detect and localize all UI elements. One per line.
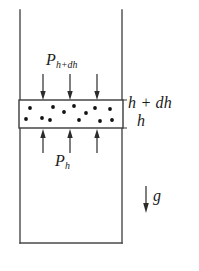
pressure-top-label: Ph+dh <box>46 52 78 70</box>
pressure-bottom-symbol: P <box>55 152 65 169</box>
height-top-label: h + dh <box>128 95 172 111</box>
particle <box>93 106 97 110</box>
particle <box>84 111 88 115</box>
particle <box>62 110 66 114</box>
particle <box>77 118 81 122</box>
pressure-arrow-top-1 <box>40 74 45 100</box>
pressure-bottom-subscript: h <box>65 160 70 171</box>
particle <box>24 117 28 121</box>
figure-caption-clipped <box>60 261 150 271</box>
hydrostatic-pressure-figure: Ph+dh Ph h + dh h g <box>0 0 199 271</box>
particle <box>110 118 114 122</box>
fluid-slab-element <box>19 100 123 128</box>
pressure-arrow-top-3 <box>94 74 99 100</box>
particle <box>72 104 76 108</box>
pressure-arrow-top-2 <box>67 74 72 100</box>
slab-outline <box>19 100 123 128</box>
gravity-label: g <box>153 188 161 204</box>
pressure-bottom-label: Ph <box>55 153 70 171</box>
particle <box>48 118 52 122</box>
particle <box>108 107 112 111</box>
pressure-arrow-bottom-1 <box>40 129 45 153</box>
particle <box>28 106 32 110</box>
pressure-top-subscript: h+dh <box>56 59 78 70</box>
particle <box>98 119 102 123</box>
pressure-arrow-bottom-3 <box>94 129 99 153</box>
figure-canvas <box>0 0 199 271</box>
pressure-arrows-bottom <box>40 129 99 153</box>
height-bottom-label: h <box>137 113 145 129</box>
gravity-arrow <box>143 186 149 213</box>
particle <box>40 116 44 120</box>
particle <box>51 105 55 109</box>
pressure-arrows-top <box>40 74 99 100</box>
pressure-arrow-bottom-2 <box>67 129 72 153</box>
pressure-top-symbol: P <box>46 51 56 68</box>
